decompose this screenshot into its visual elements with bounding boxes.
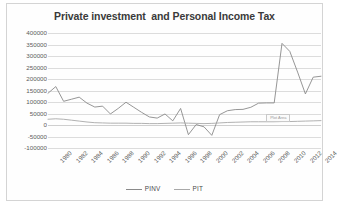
gridline — [48, 148, 321, 149]
x-axis-tick-label: 2002 — [231, 150, 245, 164]
x-axis-tick-label: 1980 — [59, 150, 73, 164]
y-axis-tick-label: 250000 — [13, 64, 47, 70]
x-axis-tick-labels: 1980198219841986198819901992199419961998… — [48, 150, 321, 190]
line-marker-icon — [174, 189, 190, 190]
x-axis-tick-label: 1982 — [75, 150, 89, 164]
x-axis-tick-label: 1996 — [184, 150, 198, 164]
x-axis-tick-label: 2000 — [215, 150, 229, 164]
y-axis-tick-label: 350000 — [13, 41, 47, 47]
x-axis-tick-label: 1998 — [199, 150, 213, 164]
y-axis-tick-label: 200000 — [13, 76, 47, 82]
x-axis-tick-label: 2006 — [262, 150, 276, 164]
x-axis-tick-label: 1994 — [168, 150, 182, 164]
legend-label: PINV — [145, 186, 161, 192]
x-axis-tick-label: 1986 — [106, 150, 120, 164]
y-axis-tick-label: 400000 — [13, 30, 47, 36]
y-axis-tick-labels: 4000003500003000002500002000001500001000… — [13, 33, 47, 148]
y-axis-tick-label: 0 — [13, 122, 47, 128]
x-axis-tick-label: 2012 — [309, 150, 323, 164]
x-axis-tick-label: 2014 — [324, 150, 338, 164]
x-axis-tick-label: 2010 — [293, 150, 307, 164]
x-axis-tick-label: 2004 — [246, 150, 260, 164]
series-layer — [48, 33, 321, 148]
chart-title: Private investment and Personal Income T… — [7, 10, 322, 22]
x-axis-tick-label: 2008 — [277, 150, 291, 164]
line-marker-icon — [126, 189, 142, 190]
chart-container: Private investment and Personal Income T… — [6, 3, 323, 201]
plot-area: Plot Area — [48, 33, 321, 148]
x-axis-tick-label: 1992 — [153, 150, 167, 164]
y-axis-tick-label: 50000 — [13, 110, 47, 116]
x-axis-tick-label: 1984 — [90, 150, 104, 164]
y-axis-tick-label: -50000 — [13, 133, 47, 139]
legend-item-pit[interactable]: PIT — [174, 186, 204, 192]
legend-item-pinv[interactable]: PINV — [126, 186, 161, 192]
y-axis-tick-label: 150000 — [13, 87, 47, 93]
x-axis-tick-label: 1990 — [137, 150, 151, 164]
chart-legend: PINVPIT — [7, 186, 322, 192]
x-axis-tick-label: 1988 — [121, 150, 135, 164]
legend-label: PIT — [193, 186, 204, 192]
y-axis-tick-label: -100000 — [13, 145, 47, 151]
y-axis-tick-label: 100000 — [13, 99, 47, 105]
y-axis-tick-label: 300000 — [13, 53, 47, 59]
plot-area-annotation: Plot Area — [266, 114, 290, 122]
